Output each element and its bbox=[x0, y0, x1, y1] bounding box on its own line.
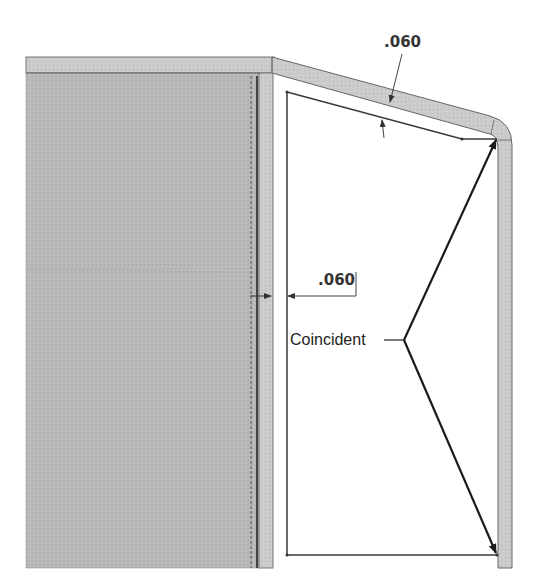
bent-flange bbox=[272, 57, 512, 568]
side-panel bbox=[26, 57, 274, 568]
dimension-side-label: .060 bbox=[318, 271, 355, 289]
top-flange bbox=[26, 57, 274, 73]
coincident-label: Coincident bbox=[290, 331, 366, 348]
panel-face bbox=[26, 73, 259, 568]
arrow-to-top-corner bbox=[404, 140, 496, 340]
arrow-to-bottom-corner bbox=[404, 340, 496, 553]
dimension-top-label: .060 bbox=[384, 33, 421, 51]
panel-edge-flange bbox=[259, 73, 273, 568]
sheet-metal-drawing: .060 .060 Coincident bbox=[0, 0, 546, 587]
coincident-callout[interactable]: Coincident bbox=[290, 140, 496, 553]
